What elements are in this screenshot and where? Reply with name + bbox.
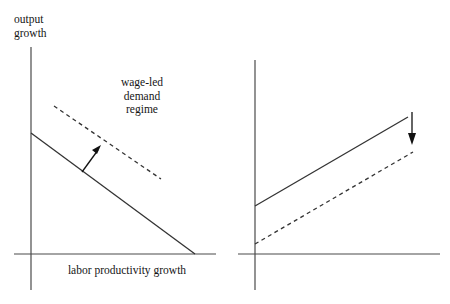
- wage-led-plot: [0, 0, 225, 304]
- x-axis-label-wage-led: labor productivity growth: [42, 264, 212, 278]
- figure-canvas: output growth wage-led demand regime lab…: [0, 0, 450, 304]
- demand-regime-line-solid: [31, 133, 195, 254]
- upward-shift-arrow: [82, 145, 101, 172]
- downward-shift-arrow: [408, 112, 416, 145]
- demand-regime-line-solid: [255, 117, 408, 206]
- profit-led-plot: [225, 0, 450, 304]
- panel-wage-led: output growth wage-led demand regime lab…: [0, 0, 225, 304]
- panel-profit-led: profit-led demand regime labor productiv…: [225, 0, 450, 304]
- regime-label-wage-led: wage-led demand regime: [96, 76, 188, 117]
- demand-regime-line-dashed: [54, 106, 161, 179]
- y-axis-label: output growth: [14, 12, 47, 40]
- demand-regime-line-dashed: [255, 152, 413, 244]
